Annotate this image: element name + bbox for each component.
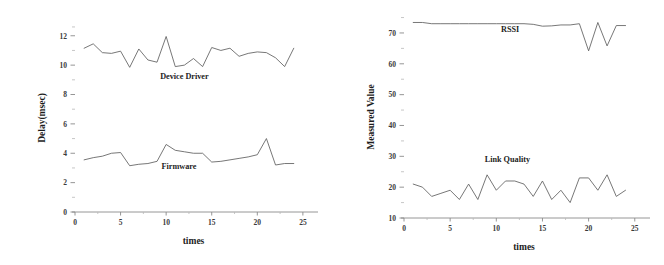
- delay-axes: 0510152025024681012Delay(msec)times: [37, 27, 318, 246]
- y-axis-title: Measured Value: [366, 84, 376, 150]
- y-tick-label-0: 0: [63, 208, 67, 217]
- x-tick-label-5: 5: [448, 224, 452, 233]
- x-tick-label-25: 25: [299, 218, 307, 227]
- x-tick-label-20: 20: [254, 218, 262, 227]
- x-tick-label-10: 10: [493, 224, 501, 233]
- y-tick-label-2: 2: [63, 178, 67, 187]
- x-tick-label-0: 0: [73, 218, 77, 227]
- y-tick-label-8: 8: [63, 90, 67, 99]
- x-tick-label-15: 15: [208, 218, 216, 227]
- y-tick-label-6: 6: [63, 120, 67, 129]
- series-label-device-driver: Device Driver: [160, 72, 209, 81]
- x-tick-label-10: 10: [162, 218, 170, 227]
- chart-panel-measured-value: 051015202510203040506070Measured Valueti…: [332, 0, 664, 265]
- y-tick-label-10: 10: [60, 61, 68, 70]
- x-axis-title: times: [513, 242, 535, 252]
- x-tick-label-20: 20: [585, 224, 593, 233]
- delay-chart-svg: 0510152025024681012Delay(msec)times Devi…: [0, 0, 332, 265]
- measured-labels: RSSILink Quality: [485, 25, 531, 164]
- measured-value-chart-svg: 051015202510203040506070Measured Valueti…: [332, 0, 664, 265]
- y-tick-label-30: 30: [389, 152, 397, 161]
- chart-panel-delay: 0510152025024681012Delay(msec)times Devi…: [0, 0, 332, 265]
- y-tick-label-60: 60: [389, 60, 397, 69]
- series-line-link-quality: [413, 175, 625, 203]
- y-tick-label-12: 12: [60, 32, 68, 41]
- series-label-rssi: RSSI: [501, 25, 519, 34]
- measured-axes: 051015202510203040506070Measured Valueti…: [366, 18, 650, 252]
- series-line-rssi: [413, 22, 625, 50]
- delay-labels: Device DriverFirmware: [160, 72, 209, 171]
- series-line-device-driver: [84, 36, 294, 67]
- y-axis-title: Delay(msec): [37, 93, 48, 143]
- x-tick-label-25: 25: [631, 224, 639, 233]
- y-tick-label-10: 10: [389, 214, 397, 223]
- figure-two-line-charts: 0510152025024681012Delay(msec)times Devi…: [0, 0, 664, 265]
- delay-series-lines: [84, 36, 294, 165]
- x-tick-label-15: 15: [539, 224, 547, 233]
- x-tick-label-0: 0: [402, 224, 406, 233]
- y-tick-label-4: 4: [63, 149, 67, 158]
- measured-series-lines: [413, 22, 625, 202]
- series-label-firmware: Firmware: [161, 162, 196, 171]
- series-label-link-quality: Link Quality: [485, 155, 531, 164]
- y-tick-label-20: 20: [389, 183, 397, 192]
- y-tick-label-40: 40: [389, 121, 397, 130]
- y-tick-label-70: 70: [389, 29, 397, 38]
- x-axis-title: times: [183, 236, 205, 246]
- x-tick-label-5: 5: [119, 218, 123, 227]
- y-tick-label-50: 50: [389, 90, 397, 99]
